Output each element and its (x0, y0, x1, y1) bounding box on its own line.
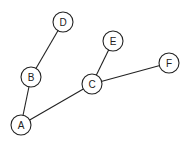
node-b: B (21, 67, 41, 87)
node-label: D (59, 17, 66, 28)
node-f: F (159, 53, 179, 73)
edges-layer (21, 22, 169, 125)
node-e: E (103, 31, 123, 51)
node-a: A (11, 115, 31, 135)
graph-diagram: ABCDEF (0, 0, 191, 144)
edge-a-c (21, 84, 92, 125)
node-label: A (18, 120, 25, 131)
node-label: B (28, 72, 35, 83)
node-label: E (110, 36, 117, 47)
node-c: C (82, 74, 102, 94)
edge-c-f (92, 63, 169, 84)
node-d: D (53, 12, 73, 32)
node-label: F (166, 58, 172, 69)
node-label: C (88, 79, 95, 90)
